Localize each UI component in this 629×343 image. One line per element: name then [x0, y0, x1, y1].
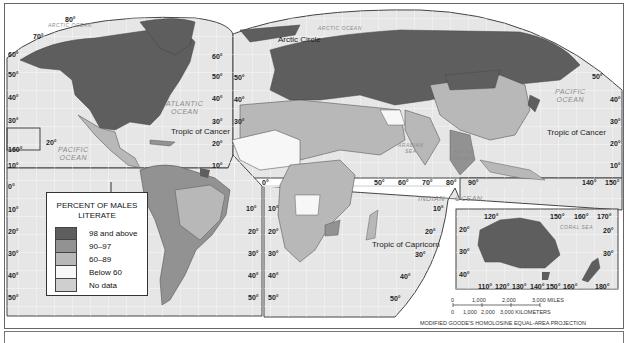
- map-legend: PERCENT OF MALES LITERATE 98 and above 9…: [46, 192, 148, 296]
- lat-label: 40°: [8, 272, 19, 279]
- lat-label: 20°: [8, 228, 19, 235]
- ocean-label-indian-1: INDIAN: [418, 195, 445, 203]
- lat-label: 10°: [212, 162, 223, 169]
- lon-label: 50°: [374, 179, 385, 186]
- lat-label: 40°: [400, 273, 411, 280]
- ocean-label-arctic-right: ARCTIC OCEAN: [318, 25, 362, 31]
- ocean-label-bay-of-bengal: BAY OF BENGAL: [452, 149, 475, 161]
- lat-label: 10°: [8, 206, 19, 213]
- lat-label: 20°: [268, 228, 279, 235]
- tropic-cancer-right-label: Tropic of Cancer: [547, 128, 606, 137]
- lat-label: 50°: [390, 295, 401, 302]
- ocean-label-atlantic: ATLANTIC OCEAN: [166, 100, 203, 116]
- lon-label: 160°: [8, 146, 22, 153]
- lat-label: 20°: [46, 139, 57, 146]
- lat-label: 30°: [248, 250, 259, 257]
- lat-label: 40°: [248, 272, 259, 279]
- lat-label: 20°: [425, 228, 436, 235]
- lat-label: 30°: [268, 250, 279, 257]
- lat-label: 40°: [268, 272, 279, 279]
- lon-label: 120°: [495, 283, 509, 290]
- lat-label: 50°: [234, 74, 245, 81]
- lat-label: 30°: [234, 118, 245, 125]
- tropic-cancer-left-label: Tropic of Cancer: [171, 127, 230, 136]
- lat-label: 30°: [8, 250, 19, 257]
- lat-label: 30°: [212, 118, 223, 125]
- legend-swatch: [55, 279, 77, 292]
- lat-label: 50°: [212, 73, 223, 80]
- legend-item-no-data: No data: [47, 279, 147, 292]
- legend-swatch: [55, 253, 77, 266]
- lat-label: 30°: [8, 117, 19, 124]
- lat-label: 70°: [33, 33, 44, 40]
- lat-label: 40°: [212, 95, 223, 102]
- lon-label: 150°: [605, 179, 619, 186]
- lat-label: 20°: [248, 228, 259, 235]
- lat-label: 50°: [592, 73, 603, 80]
- legend-item-98-above: 98 and above: [47, 227, 147, 240]
- ocean-label-pacific-left: PACIFIC OCEAN: [58, 146, 89, 162]
- lat-label: 10°: [610, 162, 621, 169]
- lon-label: 180°: [595, 283, 609, 290]
- lon-label: 70°: [422, 179, 433, 186]
- ocean-label-arabian-sea: ARABIAN SEA: [398, 142, 423, 154]
- legend-swatch: [55, 266, 77, 279]
- ocean-label-pacific-right: PACIFIC OCEAN: [555, 88, 586, 104]
- ocean-label-indian-2: OCEAN: [455, 195, 482, 203]
- lat-label: 0°: [8, 183, 15, 190]
- lon-label: 140°: [582, 179, 596, 186]
- legend-item-90-97: 90–97: [47, 240, 147, 253]
- tropic-capricorn-label: Tropic of Capricorn: [372, 240, 440, 249]
- lat-label: 50°: [8, 71, 19, 78]
- lat-label: 60°: [212, 53, 223, 60]
- lon-label: 120°: [484, 213, 498, 220]
- lon-label: 140°: [530, 283, 544, 290]
- lat-label: 10°: [268, 205, 279, 212]
- lat-label: 40°: [234, 96, 245, 103]
- lat-label: 40°: [459, 271, 470, 278]
- arctic-circle-label: Arctic Circle: [278, 35, 321, 44]
- lat-label: 80°: [65, 16, 76, 23]
- lon-label: 110°: [478, 283, 492, 290]
- lon-label: 130°: [512, 283, 526, 290]
- lat-label: 50°: [8, 294, 19, 301]
- lon-label: 150°: [546, 283, 560, 290]
- lat-label: 30°: [459, 248, 470, 255]
- legend-swatch: [55, 240, 77, 253]
- lon-label: 160°: [563, 283, 577, 290]
- lat-label: 30°: [610, 118, 621, 125]
- lat-label: 60°: [8, 51, 19, 58]
- lon-label: 60°: [398, 179, 409, 186]
- ocean-label-coral-sea: CORAL SEA: [560, 224, 593, 230]
- lat-label: 50°: [268, 294, 279, 301]
- lat-label: 20°: [459, 226, 470, 233]
- lat-label: 10°: [433, 205, 444, 212]
- legend-item-below-60: Below 60: [47, 266, 147, 279]
- legend-item-60-89: 60–89: [47, 253, 147, 266]
- lat-label: 20°: [603, 227, 614, 234]
- lat-label: 30°: [415, 251, 426, 258]
- legend-title: PERCENT OF MALES LITERATE: [47, 201, 147, 221]
- legend-swatch: [55, 227, 77, 240]
- lower-frame: [4, 331, 624, 343]
- lat-label: 10°: [246, 205, 257, 212]
- lon-label: 160°: [574, 213, 588, 220]
- lon-label: 150°: [550, 213, 564, 220]
- lat-label: 10°: [8, 162, 19, 169]
- lon-label: 80°: [446, 179, 457, 186]
- lat-label: 20°: [212, 140, 223, 147]
- lat-label: 30°: [603, 250, 614, 257]
- lat-label: 50°: [248, 294, 259, 301]
- lon-label: 90°: [468, 179, 479, 186]
- lat-label: 20°: [610, 140, 621, 147]
- lon-label: 170°: [597, 213, 611, 220]
- lat-label: 40°: [610, 96, 621, 103]
- lon-label: 0°: [262, 179, 269, 186]
- lat-label: 40°: [8, 94, 19, 101]
- projection-label: MODIFIED GOODE'S HOMOLOSINE EQUAL-AREA P…: [420, 320, 586, 326]
